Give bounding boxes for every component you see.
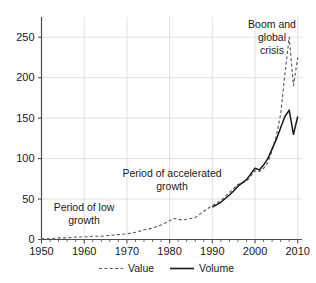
- chart-container: 050100150200250 195019601970198019902000…: [0, 0, 316, 283]
- line-chart: 050100150200250 195019601970198019902000…: [0, 0, 316, 283]
- annotation-low-growth-line-2: growth: [68, 214, 100, 226]
- annotation-boom-crisis-line-1: Boom and: [248, 18, 296, 30]
- x-tick-label-1960: 1960: [72, 245, 96, 257]
- x-tick-label-1950: 1950: [29, 245, 53, 257]
- x-tick-label-1970: 1970: [115, 245, 139, 257]
- annotation-accelerated-growth-line-2: growth: [156, 180, 188, 192]
- legend-label-value: Value: [128, 262, 154, 274]
- y-tick-label-100: 100: [16, 152, 34, 164]
- legend-label-volume: Volume: [199, 262, 234, 274]
- annotation-boom-crisis-line-2: global: [258, 31, 286, 43]
- x-tick-label-2000: 2000: [243, 245, 267, 257]
- x-tick-label-1990: 1990: [200, 245, 224, 257]
- x-tick-label-1980: 1980: [157, 245, 181, 257]
- x-tick-label-2010: 2010: [285, 245, 309, 257]
- y-tick-label-50: 50: [22, 193, 34, 205]
- y-tick-label-200: 200: [16, 71, 34, 83]
- annotation-accelerated-growth-line-1: Period of accelerated: [122, 167, 221, 179]
- y-tick-label-250: 250: [16, 31, 34, 43]
- y-tick-label-0: 0: [28, 233, 34, 245]
- annotation-boom-crisis-line-3: crisis: [260, 44, 284, 56]
- y-tick-label-150: 150: [16, 112, 34, 124]
- annotation-low-growth-line-1: Period of low: [54, 201, 115, 213]
